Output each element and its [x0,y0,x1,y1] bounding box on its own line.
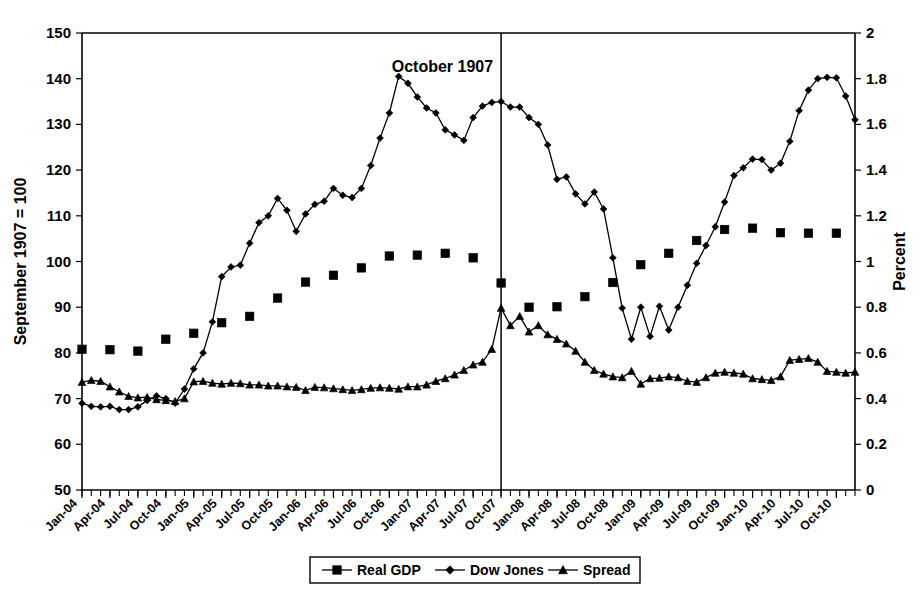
dow-jones-marker [181,386,188,393]
left-axis-tick-label: 130 [46,115,71,132]
real-gdp-marker [217,319,225,327]
dow-jones-marker [97,403,104,410]
real-gdp-marker [665,249,673,257]
legend-label-real-gdp: Real GDP [357,562,421,578]
spread-marker [777,373,785,380]
real-gdp-marker [609,278,617,286]
real-gdp-marker [413,251,421,259]
dow-jones-marker [200,350,207,357]
real-gdp-marker [190,329,198,337]
dow-jones-marker [554,176,561,183]
left-axis-tick-label: 50 [54,481,71,498]
spread-marker [814,358,822,365]
right-axis-tick-label: 1.8 [866,70,887,87]
dow-jones-marker [107,403,114,410]
spread-marker [423,381,431,388]
spread-marker [600,370,608,377]
dow-jones-marker [507,104,514,111]
real-gdp-marker [832,229,840,237]
real-gdp-marker [692,236,700,244]
dow-jones-marker [377,135,384,142]
right-axis-tick-label: 1.2 [866,207,887,224]
spread-marker [535,322,543,329]
dow-jones-marker [88,403,95,410]
real-gdp-marker [525,303,533,311]
dow-jones-marker [488,99,495,106]
dow-jones-marker [786,138,793,145]
spread-marker [553,335,561,342]
dow-jones-marker [209,318,216,325]
legend-marker-square [333,566,341,574]
real-gdp-marker [497,279,505,287]
spread-marker [115,388,123,395]
spread-line [82,308,855,401]
real-gdp-marker [357,264,365,272]
left-axis-tick-label: 150 [46,24,71,41]
dow-jones-marker [712,223,719,230]
real-gdp-marker [469,254,477,262]
right-axis-tick-label: 0.6 [866,344,887,361]
dow-jones-marker [675,304,682,311]
spread-marker [628,367,636,374]
dow-jones-marker [79,400,86,407]
x-axis-tick-label: Oct-10 [797,496,834,533]
real-gdp-marker [637,260,645,268]
right-axis-tick-label: 1.6 [866,115,887,132]
dow-jones-marker [693,260,700,267]
left-axis-tick-label: 80 [54,344,71,361]
dow-jones-marker [116,406,123,413]
right-axis-tick-label: 0.8 [866,298,887,315]
legend-label-dow-jones: Dow Jones [470,562,544,578]
dow-jones-marker [293,228,300,235]
spread-marker [488,345,496,352]
dow-jones-marker [656,303,663,310]
spread-marker [181,395,189,402]
dow-jones-marker [628,336,635,343]
right-axis-title: Percent [891,231,908,290]
dow-jones-line [82,76,855,409]
right-axis-tick-label: 0.4 [866,390,888,407]
spread-marker [702,374,710,381]
left-axis-tick-label: 140 [46,70,71,87]
spread-marker [562,340,570,347]
dow-jones-marker [190,365,197,372]
real-gdp-marker [273,294,281,302]
left-axis-title: September 1907 = 100 [12,178,29,346]
spread-marker [451,371,459,378]
spread-marker [125,393,133,400]
dow-jones-marker [619,305,626,312]
real-gdp-marker [720,225,728,233]
dow-jones-marker [824,74,831,81]
real-gdp-marker [581,292,589,300]
dow-jones-marker [563,174,570,181]
dow-jones-marker [544,142,551,149]
dow-jones-marker [637,304,644,311]
real-gdp-marker [748,224,756,232]
dow-jones-marker [460,137,467,144]
dow-jones-marker [833,74,840,81]
real-gdp-marker [776,229,784,237]
right-axis-tick-label: 1.4 [866,161,888,178]
real-gdp-marker [441,249,449,257]
left-axis-tick-label: 60 [54,435,71,452]
dow-jones-marker [125,406,132,413]
dow-jones-marker [647,333,654,340]
spread-marker [497,304,505,311]
real-gdp-marker [162,335,170,343]
spread-marker [441,375,449,382]
real-gdp-marker [804,229,812,237]
left-axis-tick-label: 90 [54,298,71,315]
dow-jones-marker [433,110,440,117]
real-gdp-marker [106,346,114,354]
legend-label-spread: Spread [583,562,630,578]
dow-jones-marker [796,107,803,114]
dow-jones-marker [842,93,849,100]
real-gdp-marker [301,278,309,286]
real-gdp-marker [329,271,337,279]
real-gdp-marker [385,252,393,260]
right-axis-tick-label: 2 [866,24,874,41]
right-axis-tick-label: 0 [866,481,874,498]
dow-jones-marker [246,240,253,247]
left-axis-tick-label: 120 [46,161,71,178]
real-gdp-marker [553,303,561,311]
